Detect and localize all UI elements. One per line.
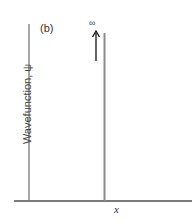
infinity-annotation: ∞ <box>89 18 95 28</box>
x-axis-label: x <box>114 203 119 215</box>
arrow-up-icon <box>93 31 100 61</box>
panel-label: (b) <box>40 22 53 34</box>
y-axis-label: Wavefunction, ψ <box>21 39 33 169</box>
